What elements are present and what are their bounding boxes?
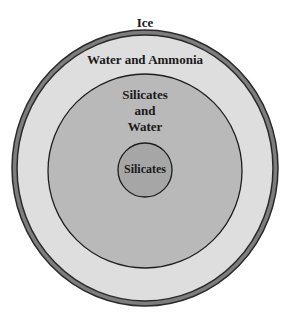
label-silicates-water-1: Silicates <box>105 87 185 103</box>
planet-interior-diagram <box>0 0 292 315</box>
label-silicates-water-3: Water <box>105 119 185 135</box>
label-silicates-water-2: and <box>105 103 185 119</box>
label-ice: Ice <box>125 15 165 31</box>
label-silicates-core: Silicates <box>115 162 175 177</box>
label-water-ammonia: Water and Ammonia <box>70 52 220 68</box>
